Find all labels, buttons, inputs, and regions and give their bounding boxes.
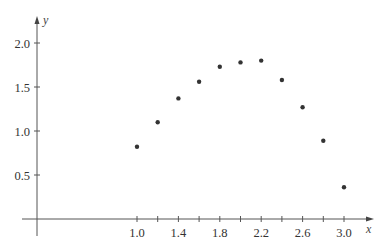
y-axis-label: y [42, 13, 49, 27]
data-point [197, 80, 201, 84]
data-point [280, 78, 284, 82]
y-ticks: 0.51.01.52.0 [14, 37, 40, 183]
x-tick-label: 2.6 [295, 226, 311, 240]
x-axis-arrow-icon [366, 217, 374, 222]
x-tick-label: 1.0 [129, 226, 145, 240]
y-axis-arrow-icon [35, 16, 40, 24]
y-tick-label: 1.0 [14, 125, 30, 139]
y-tick-label: 1.5 [14, 81, 30, 95]
x-tick-label: 3.0 [336, 226, 352, 240]
data-point [176, 96, 180, 100]
y-tick-label: 2.0 [14, 37, 30, 51]
axes: x y [22, 13, 374, 236]
scatter-chart: x y 1.01.41.82.22.63.0 0.51.01.52.0 [0, 0, 389, 249]
data-point [218, 65, 222, 69]
x-tick-label: 2.2 [253, 226, 269, 240]
data-point [135, 145, 139, 149]
x-ticks: 1.01.41.82.22.63.0 [129, 216, 352, 240]
x-tick-label: 1.4 [171, 226, 187, 240]
data-point [321, 139, 325, 143]
x-tick-label: 1.8 [212, 226, 228, 240]
y-tick-label: 0.5 [14, 169, 30, 183]
data-point [300, 105, 304, 109]
data-points [135, 58, 346, 189]
data-point [259, 58, 263, 62]
data-point [342, 185, 346, 189]
data-point [238, 60, 242, 64]
data-point [156, 120, 160, 124]
x-axis-label: x [365, 222, 372, 236]
